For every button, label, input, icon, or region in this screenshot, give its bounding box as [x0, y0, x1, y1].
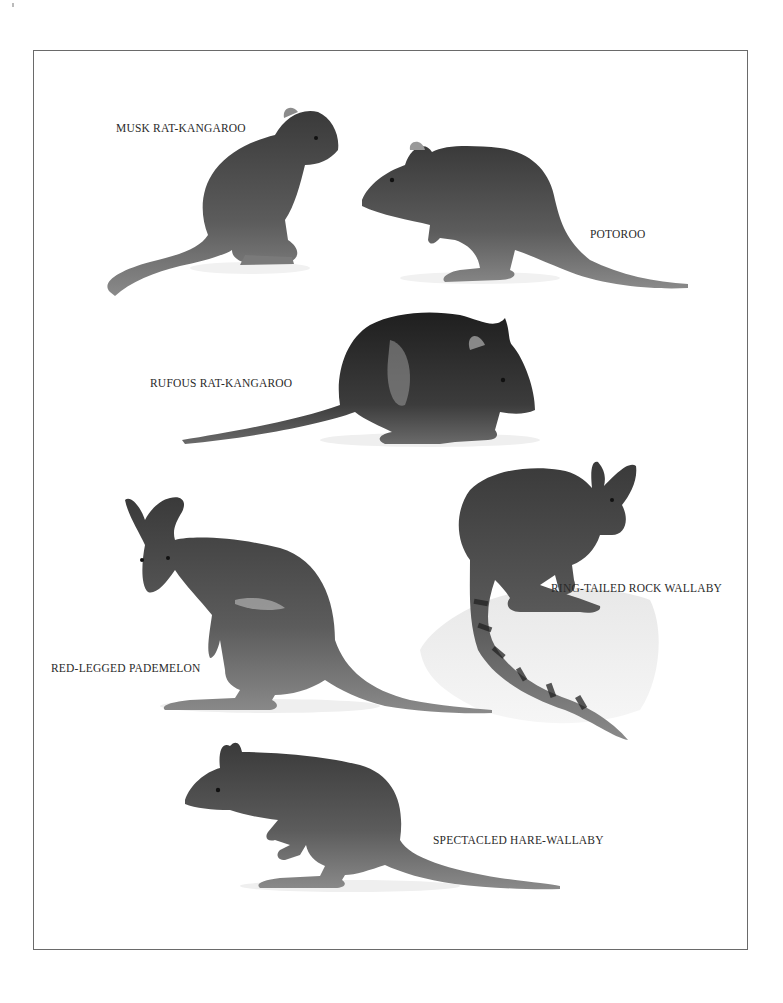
label-potoroo: POTOROO: [590, 228, 646, 240]
label-rufous-rat-kangaroo: RUFOUS RAT-KANGAROO: [150, 377, 292, 389]
ring-tailed-rock-wallaby-figure: [420, 462, 659, 740]
musk-rat-kangaroo-figure: [107, 108, 338, 296]
potoroo-figure: [362, 142, 688, 289]
label-ring-tailed-rock-wallaby: RING-TAILED ROCK WALLABY: [551, 582, 722, 594]
label-spectacled-hare-wallaby: SPECTACLED HARE-WALLABY: [433, 834, 604, 846]
label-red-legged-pademelon: RED-LEGGED PADEMELON: [51, 662, 201, 674]
label-musk-rat-kangaroo: MUSK RAT-KANGAROO: [116, 122, 246, 134]
spectacled-hare-wallaby-figure: [185, 743, 560, 892]
animal-illustrations: [0, 0, 783, 1003]
